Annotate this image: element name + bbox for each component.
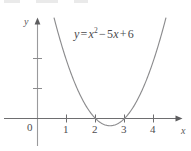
y-axis-arrowhead bbox=[35, 18, 41, 25]
x-tick-label-3: 3 bbox=[121, 124, 127, 135]
x-tick-label-2: 2 bbox=[92, 124, 98, 135]
equation-annotation: y=x2−5x+6 bbox=[74, 28, 134, 40]
origin-label: 0 bbox=[27, 122, 33, 133]
equation-equals: = bbox=[80, 27, 89, 41]
equation-constant: 6 bbox=[128, 27, 134, 41]
x-tick-label-4: 4 bbox=[150, 124, 156, 135]
equation-lhs: y bbox=[74, 27, 80, 41]
x-axis-label: x bbox=[181, 126, 185, 136]
equation-linear-var: x bbox=[113, 27, 119, 41]
x-tick-label-1: 1 bbox=[63, 124, 69, 135]
equation-plus: + bbox=[119, 27, 128, 41]
y-axis-label: y bbox=[24, 17, 28, 27]
figure-container: y x 0 1 2 3 4 y=x2−5x+6 bbox=[0, 0, 191, 151]
x-axis-arrowhead bbox=[176, 116, 183, 122]
equation-minus: − bbox=[98, 27, 107, 41]
